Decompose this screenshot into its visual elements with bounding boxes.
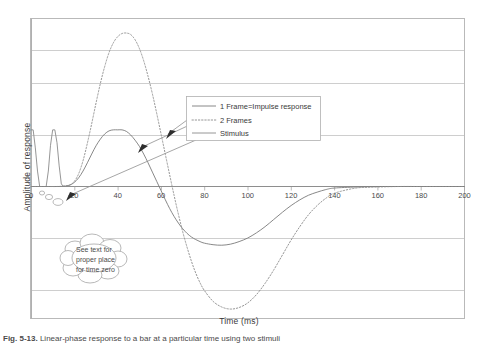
- y-axis-title: Amplitude of response: [22, 87, 32, 247]
- chart-svg: 020406080100120140160180200 1 Frame=Impu…: [0, 0, 478, 330]
- x-tick-label-40: 40: [114, 191, 122, 200]
- x-tick-label-160: 160: [372, 191, 385, 200]
- legend-label-stimulus: Stimulus: [220, 129, 249, 138]
- figure: 020406080100120140160180200 1 Frame=Impu…: [0, 0, 478, 343]
- x-tick-label-140: 140: [328, 191, 341, 200]
- legend-label-2-frames: 2 Frames: [220, 116, 252, 125]
- x-tick-label-60: 60: [157, 191, 165, 200]
- legend-label-1-frame-impulse-response: 1 Frame=Impulse response: [220, 102, 312, 111]
- x-tick-label-120: 120: [285, 191, 298, 200]
- figure-caption-text: Linear-phase response to a bar at a part…: [40, 334, 280, 343]
- x-tick-label-100: 100: [241, 191, 254, 200]
- chart-legend[interactable]: 1 Frame=Impulse response 2 Frames Stimul…: [187, 97, 321, 141]
- chart-plot-area: 020406080100120140160180200 1 Frame=Impu…: [0, 0, 478, 330]
- x-tick-label-180: 180: [415, 191, 428, 200]
- thought-bubble-line-3: for time zero: [76, 266, 115, 273]
- x-axis-title: Time (ms): [0, 316, 478, 326]
- thought-bubble-line-1: See text for: [76, 246, 112, 253]
- thought-bubble-line-2: proper place: [76, 256, 115, 264]
- x-tick-label-80: 80: [200, 191, 208, 200]
- x-tick-label-200: 200: [458, 191, 471, 200]
- figure-caption-label: Fig. 5-13.: [3, 334, 38, 343]
- figure-caption: Fig. 5-13. Linear-phase response to a ba…: [3, 333, 473, 343]
